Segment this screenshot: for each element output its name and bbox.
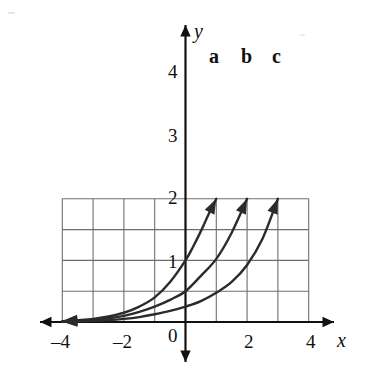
x-tick-label-0: 0 (168, 326, 178, 345)
curve-label-c: c (272, 46, 281, 66)
curve-label-a: a (209, 46, 219, 66)
y-tick-label-4: 4 (168, 62, 178, 81)
y-axis-label: y (194, 21, 203, 41)
curve-label-b: b (241, 46, 252, 66)
y-tick-label-2: 2 (168, 188, 178, 207)
axis-lines (40, 25, 334, 362)
scan-artifact (300, 34, 305, 36)
arrowhead-top-a (205, 199, 217, 215)
x-axis-arrow-left (40, 317, 52, 327)
scan-artifact (8, 12, 15, 14)
graph-figure: –4 –2 0 2 4 1 2 3 4 x y a b c (0, 0, 374, 374)
x-axis-arrow-right (323, 317, 335, 327)
y-axis-arrow-down (180, 351, 190, 363)
x-tick-label--2: –2 (113, 332, 132, 351)
arrowhead-top-b (236, 199, 247, 215)
coordinate-plane-svg (0, 0, 374, 374)
arrowhead-top-c (267, 199, 277, 215)
y-tick-label-1: 1 (168, 252, 178, 271)
y-tick-label-3: 3 (168, 126, 178, 145)
x-axis-label: x (337, 330, 346, 350)
x-tick-label--4: –4 (51, 332, 70, 351)
x-tick-label-4: 4 (306, 332, 316, 351)
x-tick-label-2: 2 (244, 332, 254, 351)
arrowhead-left-c (62, 316, 77, 327)
y-axis-arrow-up (180, 25, 190, 37)
